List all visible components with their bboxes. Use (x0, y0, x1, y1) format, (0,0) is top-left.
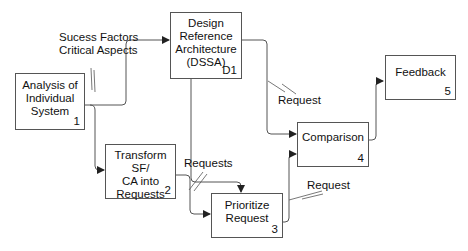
flow-label-requests: Requests (184, 157, 233, 170)
box-title-line: Individual (16, 92, 84, 105)
box-number: 5 (445, 85, 451, 97)
process-box-design-reference[interactable]: Design Reference Architecture (DSSA) D1 (170, 12, 242, 79)
box-title: Analysis of Individual System (16, 79, 84, 118)
box-title-line: Reference (171, 30, 241, 43)
flow-d1-to-3 (191, 78, 241, 192)
label-line: Sucess Factors (59, 31, 138, 44)
diagram-canvas: Analysis of Individual System 1 Design R… (0, 0, 468, 251)
flow-label-request-3-to-4: Request (307, 179, 350, 192)
box-number: 4 (358, 152, 364, 164)
process-box-prioritize[interactable]: Prioritize Request 3 (211, 193, 283, 238)
flow-break-mark (268, 81, 296, 94)
flow-label-request-d1-to-4: Request (278, 94, 321, 107)
box-title-line: Prioritize (212, 199, 282, 212)
box-title: Comparison (298, 131, 368, 144)
flow-4-to-5 (368, 81, 383, 140)
process-box-feedback[interactable]: Feedback 5 (385, 55, 456, 100)
process-box-transform[interactable]: Transform SF/ CA into Requests 2 (105, 144, 176, 199)
box-title: Feedback (386, 66, 455, 79)
flow-3-to-4 (282, 154, 296, 222)
box-number: D1 (222, 64, 237, 76)
box-title-line: Architecture (171, 43, 241, 56)
process-box-analysis[interactable]: Analysis of Individual System 1 (15, 73, 85, 130)
label-line: Requests (184, 157, 233, 169)
box-title: Design Reference Architecture (DSSA) (171, 17, 241, 69)
flow-break-mark (91, 68, 95, 92)
label-line: Critical Aspects (59, 44, 138, 57)
box-title: Prioritize Request (212, 199, 282, 225)
label-line: Request (307, 179, 350, 191)
flow-break-mark (289, 191, 323, 200)
box-title-line: Analysis of (16, 79, 84, 92)
box-number: 1 (74, 115, 80, 127)
flow-d1-to-4 (241, 40, 296, 134)
label-line: Request (278, 94, 321, 106)
box-title-line: Feedback (386, 66, 455, 79)
box-title-line: Transform SF/ (106, 149, 175, 175)
flow-label-success-factors: Sucess Factors Critical Aspects (59, 31, 138, 57)
box-title-line: Comparison (298, 131, 368, 144)
process-box-comparison[interactable]: Comparison 4 (297, 122, 369, 167)
flow-1-to-2 (90, 105, 104, 170)
box-number: 2 (165, 184, 171, 196)
box-title-line: Design (171, 17, 241, 30)
box-number: 3 (272, 223, 278, 235)
